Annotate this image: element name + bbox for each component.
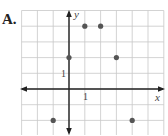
axes: y x 1 1 bbox=[20, 8, 165, 135]
y-axis-down-arrow-icon bbox=[66, 128, 72, 135]
x-axis-left-arrow-icon bbox=[20, 86, 27, 92]
data-point bbox=[51, 118, 56, 123]
data-point bbox=[66, 55, 71, 60]
x-tick-label: 1 bbox=[83, 91, 88, 102]
data-point bbox=[82, 24, 87, 29]
x-axis-label: x bbox=[154, 91, 160, 103]
data-point bbox=[130, 118, 135, 123]
grid-lines bbox=[22, 11, 164, 136]
data-point bbox=[114, 55, 119, 60]
coordinate-plane: y x 1 1 bbox=[0, 0, 168, 135]
y-tick-label: 1 bbox=[61, 68, 66, 79]
y-axis-up-arrow-icon bbox=[66, 10, 72, 17]
data-point bbox=[98, 24, 103, 29]
y-axis-label: y bbox=[73, 8, 79, 20]
